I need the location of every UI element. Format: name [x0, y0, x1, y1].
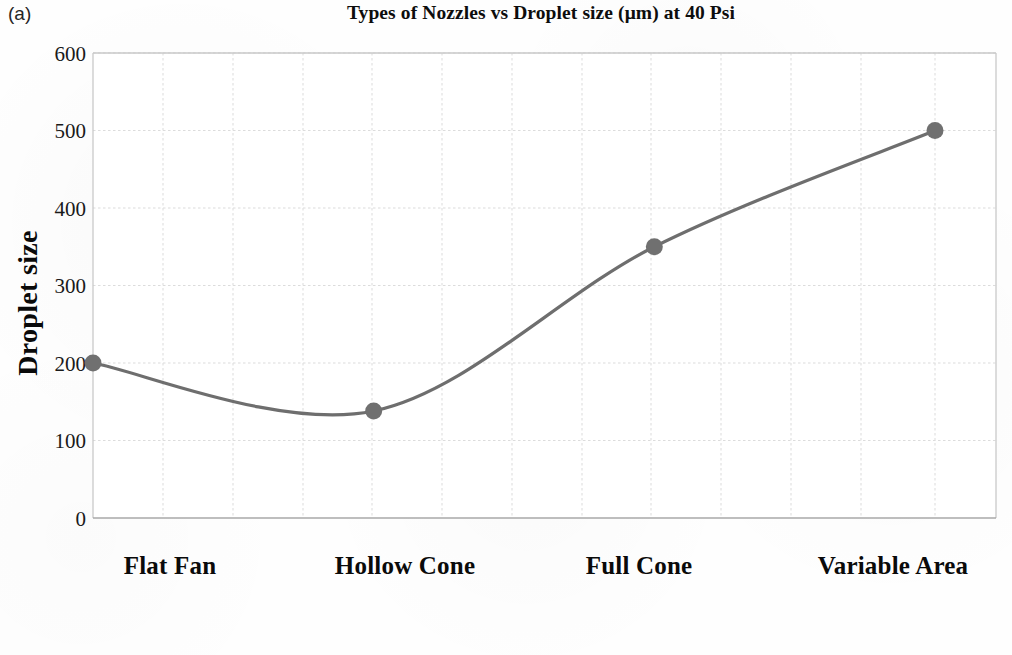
figure-panel: (a) Types of Nozzles vs Droplet size (μm… [0, 0, 1012, 655]
data-point-marker[interactable] [85, 355, 102, 372]
plot-area [0, 0, 1012, 655]
data-point-marker[interactable] [927, 122, 944, 139]
data-point-marker[interactable] [646, 238, 663, 255]
data-point-marker[interactable] [365, 403, 382, 420]
